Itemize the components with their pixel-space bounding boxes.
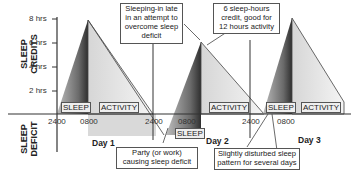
sleep-label-1: SLEEP [61,102,91,113]
day-1-label: Day 1 [92,138,115,148]
sleep-label-2: SLEEP [175,128,205,139]
day-2-label: Day 2 [206,136,229,146]
activity-triangle-3 [292,18,344,114]
callout-credit: 6 sleep-hours credit, good for 12 hours … [213,3,280,34]
x-tick: 2400 [48,117,66,126]
y-tick-6: 6 hrs [29,38,47,47]
y-axis-label-deficit: SLEEP DEFICIT [19,116,39,162]
x-tick: 0800 [80,117,98,126]
x-tick: 0800 [178,117,196,126]
x-tick: 2400 [145,117,163,126]
day-3-label: Day 3 [298,135,321,145]
callout-disturbed: Slightly disturbed sleep pattern for sev… [214,148,300,170]
sleep-label-3: SLEEP [266,102,296,113]
activity-label-1: ACTIVITY [99,102,139,113]
callout-sleeping-in: Sleeping-in late in an attempt to overco… [120,3,183,44]
y-tick-2: 2 hrs [29,86,47,95]
y-tick-8: 8 hrs [29,14,47,23]
sleep-triangle-1 [57,20,88,114]
x-tick: 0800 [277,117,295,126]
sleep-credit-diagram: SLEEP CREDITS SLEEP DEFICIT 8 hrs 6 hrs … [0,0,351,178]
activity-label-2: ACTIVITY [209,102,249,113]
activity-label-3: ACTIVITY [301,102,341,113]
callout-party: Party (or work) causing sleep deficit [116,147,198,169]
x-tick: 2400 [242,117,260,126]
y-tick-4: 4 hrs [29,62,47,71]
